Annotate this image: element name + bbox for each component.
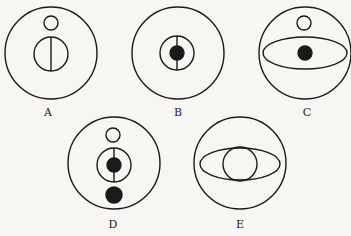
panel-a <box>5 7 97 99</box>
small-open-circle <box>44 16 58 30</box>
filled-dot <box>107 158 121 172</box>
ellipse <box>200 148 280 180</box>
panel-c <box>259 7 351 99</box>
label-e: E <box>236 218 244 231</box>
label-c: C <box>303 106 311 119</box>
filled-dot <box>170 46 184 60</box>
panel-b <box>132 7 224 99</box>
small-open-circle <box>297 16 311 30</box>
lower-filled-dot <box>106 187 122 203</box>
filled-dot <box>298 46 312 60</box>
label-a: A <box>43 106 53 119</box>
diagram-figure: A B C D E <box>0 0 351 236</box>
panel-d <box>68 117 160 209</box>
inner-circle <box>223 147 257 181</box>
label-d: D <box>109 218 118 231</box>
outer-circle <box>194 117 286 209</box>
label-b: B <box>174 106 182 119</box>
panel-e <box>194 117 286 209</box>
small-open-circle <box>106 128 120 142</box>
